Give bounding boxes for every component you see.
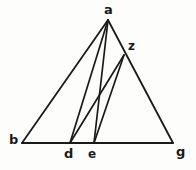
vertex-label-b: b	[9, 133, 18, 146]
cevian-line-z-d	[70, 55, 124, 143]
side-line-a-b	[22, 20, 108, 143]
vertex-label-d: d	[64, 147, 73, 160]
vertex-label-z: z	[128, 40, 135, 52]
geometry-canvas	[0, 0, 196, 170]
cevian-line-a-d	[70, 20, 108, 143]
side-line-a-g	[108, 20, 173, 143]
geometry-figure: azbdeg	[0, 0, 196, 170]
vertex-label-g: g	[176, 145, 185, 158]
vertex-label-a: a	[104, 3, 113, 16]
vertex-label-e: e	[88, 148, 96, 160]
